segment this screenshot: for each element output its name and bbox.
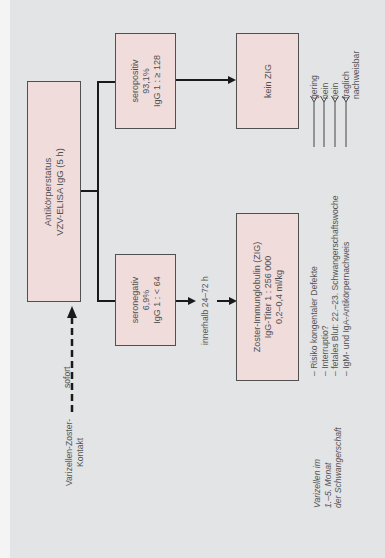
start-line: Varizellen-Zoster- — [64, 419, 75, 486]
box-line: Antikörperstatus — [42, 148, 54, 236]
answer-item: nein — [320, 51, 331, 99]
sofort-label: sofort — [62, 367, 73, 389]
context-line: Varizellen im — [312, 427, 323, 508]
box-line: VZV-ELISA IgG (5 h) — [54, 148, 66, 236]
seropositive-box: seropositiv 93,1% IgG 1 : ≥ 128 — [115, 33, 176, 129]
risk-item: – Interruptio? — [320, 195, 331, 376]
box-line: IgG 1 : ≥ 128 — [151, 55, 162, 107]
antibody-status-box: Antikörperstatus VZV-ELISA IgG (5 h) — [27, 81, 81, 302]
box-line: 6,9% — [140, 276, 151, 323]
timing-label: innerhalb 24–72 h — [200, 276, 211, 345]
risk-item: – IgM- und IgA-Antikörpernachweis — [341, 195, 352, 376]
context-line: 1.–5. Monat — [323, 427, 334, 508]
zig-box: Zoster-Immunglobulin (ZIG) IgG-Titer 1 :… — [236, 213, 299, 381]
box-line: seropositiv — [129, 55, 140, 107]
answer-item: fraglich — [341, 51, 352, 99]
risk-list: – Risiko kongentaler Defekte – Interrupt… — [309, 195, 351, 376]
box-line: 0,2–0,4 ml/kg — [273, 242, 284, 353]
risk-item: – Risiko kongentaler Defekte — [309, 195, 320, 376]
box-line: IgG 1 : < 64 — [151, 276, 162, 323]
box-line: kein ZIG — [262, 64, 273, 98]
sofort-text: sofort — [62, 367, 73, 389]
start-line: Kontakt — [75, 419, 86, 486]
box-line: Zoster-Immunglobulin (ZIG) — [251, 242, 262, 353]
risk-answers: gering nein nein fraglich nachweisbar — [309, 51, 362, 99]
risk-item: – fetales Blut: 22.–23. Schwangerschafts… — [330, 195, 341, 376]
answer-item: nachweisbar — [351, 51, 362, 99]
box-line: IgG-Titer 1 : 256 000 — [262, 242, 273, 353]
context-line: der Schwangerschaft — [333, 427, 344, 508]
timing-text: innerhalb 24–72 h — [200, 276, 211, 345]
answer-item: nein — [330, 51, 341, 99]
seronegative-box: seronegativ 6,9% IgG 1 : < 64 — [115, 254, 176, 346]
box-line: 93,1% — [140, 55, 151, 107]
context-label: Varizellen im 1.–5. Monat der Schwangers… — [312, 427, 344, 508]
answer-item: gering — [309, 51, 320, 99]
box-line: seronegativ — [129, 276, 140, 323]
no-zig-box: kein ZIG — [236, 33, 299, 129]
start-label: Varizellen-Zoster- Kontakt — [64, 419, 85, 486]
